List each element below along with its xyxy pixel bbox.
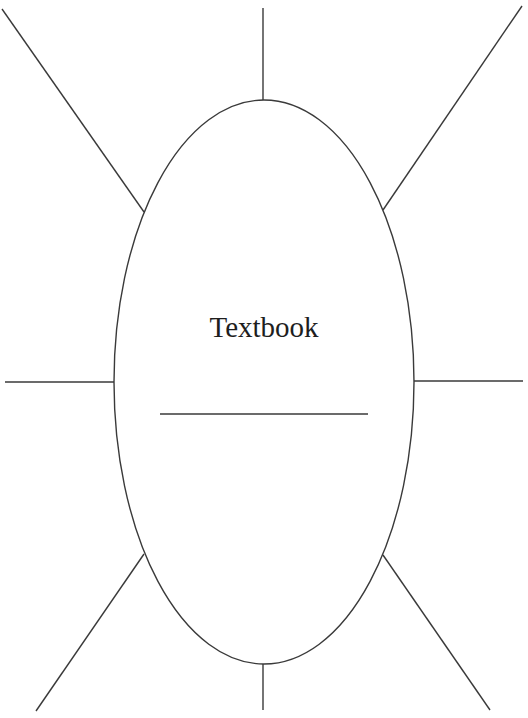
spoke-line-bottom-left: [36, 554, 144, 711]
spoke-lines: [2, 6, 523, 711]
center-ellipse: [114, 100, 414, 664]
spoke-line-top-right: [383, 6, 522, 210]
spoke-line-bottom-right: [383, 555, 490, 710]
concept-web-diagram: [0, 0, 528, 718]
center-label: Textbook: [164, 309, 364, 345]
spoke-line-top-left: [2, 9, 144, 212]
